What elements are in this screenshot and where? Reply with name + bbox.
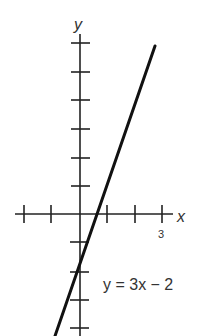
equation-label: y = 3x − 2 (103, 276, 173, 293)
y-axis-label: y (73, 16, 83, 33)
x-axis-label: x (176, 208, 186, 225)
x-tick-label: 3 (158, 228, 164, 240)
chart: y x 3 y = 3x − 2 (0, 0, 217, 336)
